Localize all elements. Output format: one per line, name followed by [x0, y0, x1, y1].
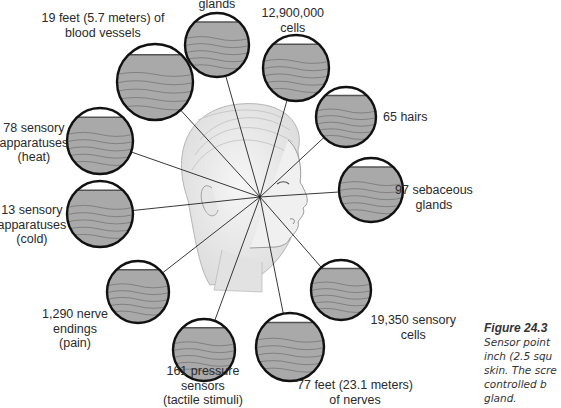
caption-line: controlled b — [484, 377, 561, 391]
circle-sweat-glands — [185, 13, 249, 77]
label-sensory-cells: 19,350 sensorycells — [371, 313, 456, 342]
label-cold-sensors: 13 sensoryapparatuses(cold) — [0, 203, 66, 247]
label-blood-vessels: 19 feet (5.7 meters) ofblood vessels — [42, 11, 165, 40]
circle-cells — [263, 35, 329, 101]
caption-line: Sensor point — [484, 335, 561, 349]
label-nerves: 77 feet (23.1 meters)of nerves — [297, 378, 413, 407]
label-pressure-sensors: 161 pressuresensors(tactile stimuli) — [163, 364, 243, 408]
circle-hairs — [316, 87, 376, 147]
circle-nerve-endings — [107, 261, 169, 323]
circle-cold-sensors — [67, 181, 133, 247]
circle-heat-sensors — [67, 108, 133, 174]
label-sweat-glands: glands — [199, 0, 236, 12]
caption-line: skin. The scre — [484, 363, 561, 377]
circle-nerves — [256, 313, 324, 381]
circle-sebaceous-glands — [339, 158, 403, 222]
label-nerve-endings: 1,290 nerveendings(pain) — [42, 307, 108, 351]
caption-line: gland. — [484, 391, 561, 405]
label-hairs: 65 hairs — [383, 110, 427, 125]
circle-blood-vessels — [117, 44, 193, 120]
label-cells: 12,900,000cells — [262, 6, 325, 35]
circle-sensory-cells — [311, 260, 371, 320]
figure-caption: Figure 24.3 Sensor point inch (2.5 squ s… — [484, 321, 561, 405]
figure-number: Figure 24.3 — [484, 321, 561, 335]
label-sebaceous-glands: 97 sebaceousglands — [395, 183, 473, 212]
label-heat-sensors: 78 sensoryapparatuses(heat) — [0, 121, 68, 165]
caption-line: inch (2.5 squ — [484, 349, 561, 363]
